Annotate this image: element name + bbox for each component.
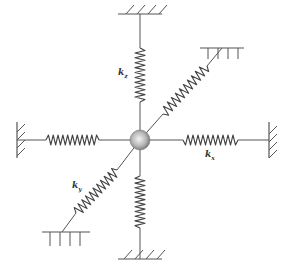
label-kz: kz bbox=[118, 68, 128, 79]
ground-bottom bbox=[118, 250, 165, 259]
ground-diag-upper bbox=[200, 48, 244, 59]
mass-ball bbox=[130, 130, 150, 150]
label-kx-sub: x bbox=[211, 154, 215, 161]
spring-coil-right bbox=[183, 135, 238, 145]
ground-top bbox=[118, 5, 167, 14]
ground-diag-lower bbox=[42, 232, 90, 246]
label-kx: kx bbox=[205, 150, 215, 161]
label-kz-sub: z bbox=[124, 72, 127, 79]
spring-mass-diagram: kz kx ky bbox=[0, 0, 288, 276]
spring-right bbox=[140, 135, 269, 145]
ground-right bbox=[269, 122, 277, 158]
spring-bottom bbox=[135, 140, 145, 259]
spring-diag-upper bbox=[140, 48, 222, 140]
spring-coil-bottom bbox=[135, 176, 145, 228]
diagram-canvas bbox=[0, 0, 288, 276]
spring-top bbox=[135, 14, 145, 140]
spring-coil-diag-upper bbox=[163, 66, 209, 115]
spring-left bbox=[17, 135, 140, 145]
label-ky: ky bbox=[72, 181, 82, 192]
label-ky-sub: y bbox=[78, 185, 82, 192]
spring-coil-top bbox=[135, 48, 145, 102]
spring-coil-left bbox=[46, 135, 99, 145]
